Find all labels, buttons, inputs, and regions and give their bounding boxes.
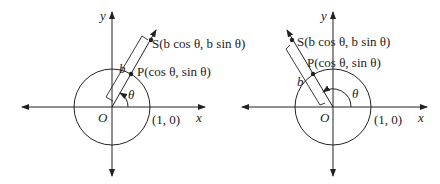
x-axis-label: x [417, 110, 424, 125]
diagram-canvas: y x O (1, 0) θ b P(cos θ, sin θ) S(b cos… [0, 0, 440, 184]
point-P-label: P(cos θ, sin θ) [137, 64, 211, 79]
length-b-label: b [119, 61, 126, 76]
origin-label: O [320, 110, 330, 125]
angle-arc [120, 93, 128, 107]
point-S-label: S(b cos θ, b sin θ) [152, 36, 245, 51]
unit-point-label: (1, 0) [152, 112, 180, 127]
point-P [311, 72, 315, 76]
angle-label: θ [352, 86, 359, 101]
y-axis-label: y [98, 8, 106, 23]
length-b-label: b [297, 74, 304, 89]
length-b-bracket [286, 45, 325, 105]
y-axis-label: y [319, 8, 327, 23]
point-S-label: S(b cos θ, b sin θ) [297, 34, 390, 49]
point-P-label: P(cos θ, sin θ) [307, 55, 381, 70]
unit-point-label: (1, 0) [374, 112, 402, 127]
x-axis-label: x [195, 110, 202, 125]
left-figure: y x O (1, 0) θ b P(cos θ, sin θ) S(b cos… [22, 8, 245, 176]
point-P [129, 72, 133, 76]
point-S [290, 38, 294, 42]
origin-label: O [98, 110, 108, 125]
angle-label: θ [128, 87, 135, 102]
right-figure: y x O (1, 0) θ b P(cos θ, sin θ) S(b cos… [242, 8, 427, 176]
